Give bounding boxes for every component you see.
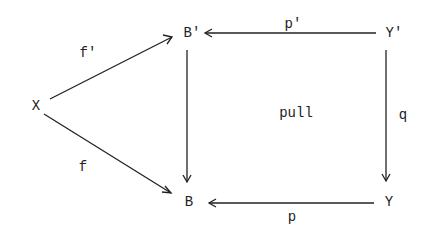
node-b: B xyxy=(185,195,193,209)
label-pull: pull xyxy=(279,106,313,120)
label-f-prime: f' xyxy=(80,46,97,60)
arrows-layer xyxy=(0,0,428,234)
node-b-prime: B' xyxy=(184,26,201,40)
label-q: q xyxy=(399,108,407,122)
arrow-f xyxy=(44,114,171,193)
label-p-prime: p' xyxy=(285,17,302,31)
arrow-b-prime-to-b xyxy=(183,50,191,182)
pullback-diagram: X B' B Y' Y f' f p' p q pull xyxy=(0,0,428,234)
arrow-p xyxy=(209,199,374,207)
node-y: Y xyxy=(385,195,393,209)
node-x: X xyxy=(32,99,40,113)
label-f: f xyxy=(79,160,87,174)
arrow-q xyxy=(382,50,390,181)
label-p: p xyxy=(288,210,296,224)
node-y-prime: Y' xyxy=(386,26,403,40)
arrow-f-prime xyxy=(50,35,172,99)
